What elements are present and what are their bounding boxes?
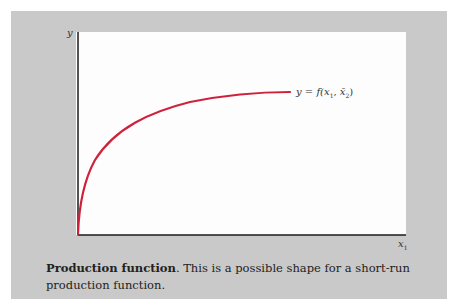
caption-title: Production function xyxy=(46,261,176,275)
production-curve xyxy=(78,92,290,234)
curve-label: y = f(x1, x̄2) xyxy=(296,86,353,99)
production-function-chart xyxy=(0,0,457,299)
x-axis-label: x1 xyxy=(398,238,407,251)
figure-caption: Production function. This is a possible … xyxy=(46,260,426,294)
y-axis-label: y xyxy=(67,27,73,38)
